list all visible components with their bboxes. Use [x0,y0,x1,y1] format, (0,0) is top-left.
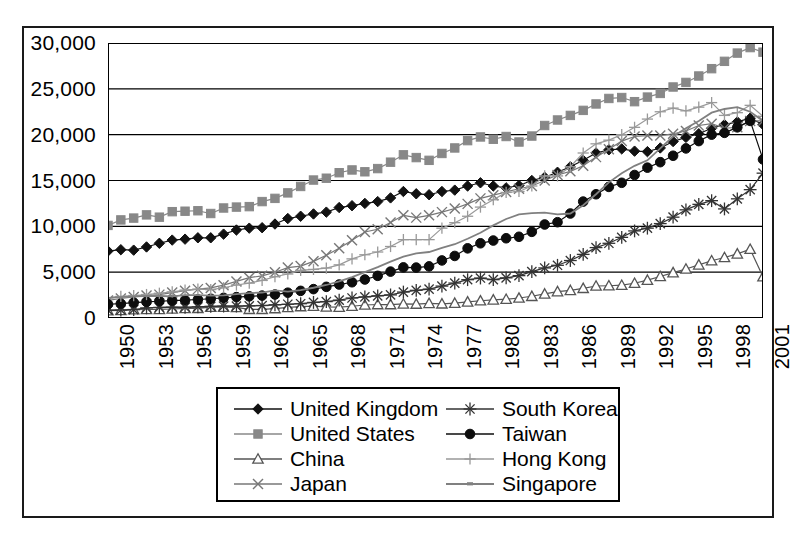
x-tick-label: 1977 [463,324,486,369]
y-tick-label: 25,000 [31,77,96,101]
y-tick-label: 20,000 [31,123,96,147]
x-axis-tick-labels: 1950195319561959196219651968197119741977… [108,322,763,390]
chart-figure: 05,00010,00015,00020,00025,00030,000 195… [0,0,804,538]
chart-legend: United KingdomSouth KoreaUnited StatesTa… [216,387,620,502]
x-tick-label: 1965 [309,324,332,369]
plot-area [108,43,763,318]
legend-item: United States [232,421,438,446]
x-tick-label: 1995 [694,324,717,369]
y-tick-label: 0 [84,306,96,330]
legend-label: United States [290,422,415,446]
legend-marker-triangle-icon [232,450,284,468]
legend-label: Taiwan [502,422,567,446]
legend-item: Taiwan [444,421,618,446]
legend-label: United Kingdom [290,397,438,421]
x-tick-label: 1962 [270,324,293,369]
legend-marker-none-icon [444,475,496,493]
legend-label: Singapore [502,472,597,496]
x-tick-label: 1971 [386,324,409,369]
legend-label: Hong Kong [502,447,606,471]
y-tick-label: 15,000 [31,169,96,193]
x-tick-label: 1986 [578,324,601,369]
x-tick-label: 2001 [771,324,794,369]
plot-border [108,43,763,318]
x-tick-label: 1989 [617,324,640,369]
legend-marker-diamond-icon [232,400,284,418]
x-tick-label: 1992 [655,324,678,369]
legend-marker-star-icon [444,400,496,418]
x-tick-label: 1974 [424,324,447,369]
legend-marker-square-icon [232,425,284,443]
x-tick-label: 1968 [347,324,370,369]
y-tick-label: 10,000 [31,214,96,238]
legend-marker-circle-icon [444,425,496,443]
x-tick-label: 1998 [732,324,755,369]
legend-item: Japan [232,471,438,496]
legend-item: Hong Kong [444,446,618,471]
legend-label: Japan [290,472,347,496]
legend-label: South Korea [502,397,618,421]
y-tick-label: 5,000 [42,260,96,284]
x-tick-label: 1950 [116,324,139,369]
x-tick-label: 1956 [193,324,216,369]
legend-label: China [290,447,344,471]
legend-item: China [232,446,438,471]
legend-marker-plus-icon [444,450,496,468]
x-tick-label: 1983 [540,324,563,369]
x-tick-label: 1953 [155,324,178,369]
y-axis-tick-labels: 05,00010,00015,00020,00025,00030,000 [14,43,102,318]
legend-item: South Korea [444,396,618,421]
legend-item: United Kingdom [232,396,438,421]
legend-marker-cross-icon [232,475,284,493]
x-tick-label: 1980 [501,324,524,369]
y-tick-label: 30,000 [31,31,96,55]
x-tick-label: 1959 [232,324,255,369]
legend-item: Singapore [444,471,618,496]
